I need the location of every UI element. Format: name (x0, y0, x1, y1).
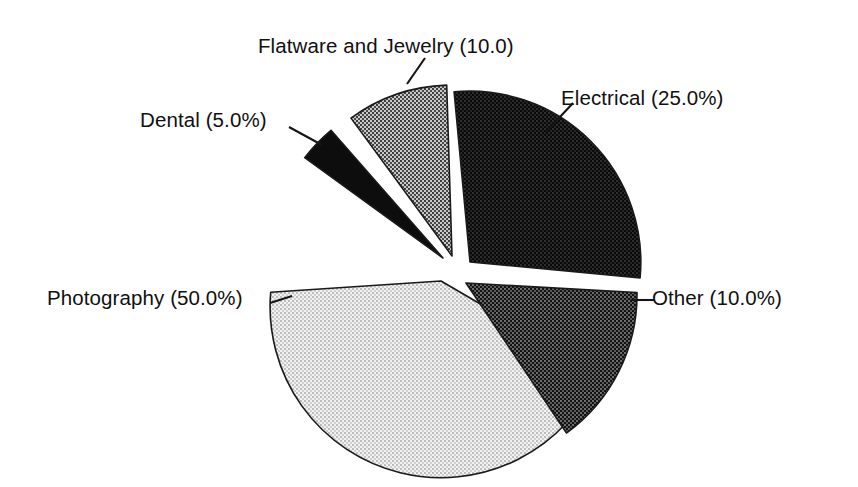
leader-line-flatware (407, 58, 425, 84)
pie-label-other: Other (10.0%) (652, 288, 782, 309)
pie-label-photography: Photography (50.0%) (47, 288, 243, 309)
pie-label-dental: Dental (5.0%) (140, 110, 267, 131)
pie-slice-electrical[interactable] (454, 91, 641, 278)
leader-line-dental (289, 127, 322, 145)
pie-label-electrical: Electrical (25.0%) (561, 88, 723, 109)
pie-chart-figure: Flatware and Jewelry (10.0) Dental (5.0%… (0, 0, 858, 487)
pie-label-flatware: Flatware and Jewelry (10.0) (258, 36, 514, 57)
pie-chart-canvas (0, 0, 858, 487)
